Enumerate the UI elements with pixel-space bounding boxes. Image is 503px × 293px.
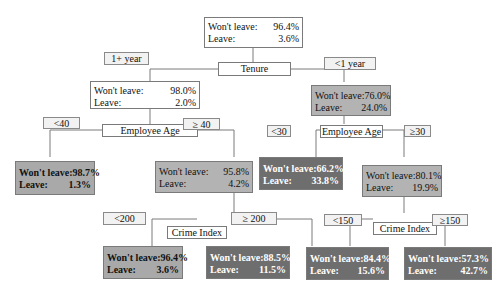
node-age-ge40: Won't leave:95.8% Leave:4.2% <box>155 161 253 193</box>
split-crime-index-right: Crime Index <box>373 222 437 235</box>
leave-value: 19.9% <box>412 182 438 194</box>
leaf-crime-lt150: Won't leave:84.4% Leave:15.6% <box>306 247 389 280</box>
node-age-ge30: Won't leave:80.1% Leave:19.9% <box>362 165 442 197</box>
split-tenure: Tenure <box>218 62 291 76</box>
leave-label: Leave: <box>94 97 121 109</box>
leaf-crime-ge150: Won't leave:57.3% Leave:42.7% <box>404 247 492 280</box>
leave-value: 33.8% <box>312 175 340 187</box>
split-employee-age-right: Employee Age <box>320 125 383 138</box>
branch-label-ge150: ≥150 <box>432 214 468 226</box>
node-tenure-lt1: Won't leave:76.0% Leave:24.0% <box>311 85 391 116</box>
leaf-crime-ge200: Won't leave:88.5% Leave:11.5% <box>206 246 290 279</box>
wont-leave-value: 96.4% <box>161 252 189 264</box>
wont-leave-value: 98.7% <box>73 167 101 179</box>
branch-label-ge40: ≥ 40 <box>183 118 220 130</box>
wont-leave-value: 96.4% <box>273 21 299 33</box>
leave-label: Leave: <box>408 265 437 277</box>
wont-leave-label: Won't leave: <box>366 170 416 182</box>
leave-value: 4.2% <box>228 178 249 190</box>
wont-leave-label: Won't leave: <box>315 90 365 102</box>
leave-value: 24.0% <box>361 102 387 114</box>
wont-leave-label: Won't leave: <box>263 163 317 175</box>
branch-label-lt30: <30 <box>267 125 291 137</box>
leave-value: 2.0% <box>175 97 196 109</box>
node-tenure-1plus: Won't leave:98.0% Leave:2.0% <box>90 81 200 109</box>
branch-label-lt200: <200 <box>103 212 146 225</box>
leave-label: Leave: <box>208 33 235 45</box>
branch-label-lt40: <40 <box>43 117 80 129</box>
wont-leave-label: Won't leave: <box>19 167 73 179</box>
leave-label: Leave: <box>315 102 342 114</box>
leave-label: Leave: <box>366 182 393 194</box>
leave-value: 3.6% <box>278 33 299 45</box>
leave-value: 42.7% <box>461 265 489 277</box>
wont-leave-label: Won't leave: <box>94 85 144 97</box>
wont-leave-label: Won't leave: <box>408 253 462 265</box>
branch-label-1plus-year: 1+ year <box>104 52 149 65</box>
leave-value: 11.5% <box>259 264 286 276</box>
wont-leave-label: Won't leave: <box>107 252 161 264</box>
wont-leave-value: 84.4% <box>364 253 392 265</box>
leaf-crime-lt200: Won't leave:96.4% Leave:3.6% <box>103 246 183 279</box>
leave-value: 1.3% <box>69 179 92 191</box>
leave-label: Leave: <box>210 264 239 276</box>
wont-leave-label: Won't leave: <box>310 253 364 265</box>
leave-value: 15.6% <box>358 265 386 277</box>
wont-leave-value: 98.0% <box>170 85 196 97</box>
branch-label-lt150: <150 <box>324 214 362 226</box>
branch-label-less-1-year: <1 year <box>324 57 376 70</box>
wont-leave-label: Won't leave: <box>208 21 258 33</box>
wont-leave-value: 88.5% <box>264 252 292 264</box>
wont-leave-value: 57.3% <box>462 253 490 265</box>
leave-label: Leave: <box>159 178 186 190</box>
branch-label-ge30: ≥30 <box>404 125 431 137</box>
leaf-age-lt40: Won't leave:98.7% Leave:1.3% <box>15 161 95 195</box>
leaf-age-lt30: Won't leave:66.2% Leave:33.8% <box>259 157 343 190</box>
leave-label: Leave: <box>107 264 136 276</box>
branch-label-ge200: ≥ 200 <box>231 212 277 225</box>
leave-label: Leave: <box>310 265 339 277</box>
leave-label: Leave: <box>19 179 48 191</box>
split-crime-index-left: Crime Index <box>167 226 227 239</box>
wont-leave-label: Won't leave: <box>159 166 209 178</box>
wont-leave-value: 80.1% <box>416 170 442 182</box>
wont-leave-value: 76.0% <box>365 90 391 102</box>
wont-leave-value: 95.8% <box>223 166 249 178</box>
root-node: Won't leave:96.4% Leave:3.6% <box>204 17 303 48</box>
leave-value: 3.6% <box>157 264 180 276</box>
leave-label: Leave: <box>263 175 292 187</box>
wont-leave-label: Won't leave: <box>210 252 264 264</box>
wont-leave-value: 66.2% <box>317 163 345 175</box>
